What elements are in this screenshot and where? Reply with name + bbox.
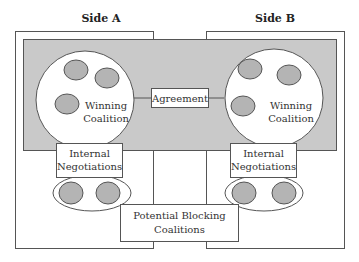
side-b-winning-label-line1: Winning	[270, 100, 313, 111]
side-a-title: Side A	[81, 12, 121, 25]
side-a-internal-label-line2: Negotiations	[57, 161, 122, 172]
agreement-label: Agreement	[151, 93, 208, 104]
side-b-blocking-member	[272, 182, 296, 204]
side-b-member-circle	[231, 96, 255, 116]
side-a-blocking-member	[96, 182, 120, 204]
side-b-internal-label-line2: Negotiations	[231, 161, 296, 172]
side-a-internal-label-line1: Internal	[69, 148, 110, 159]
side-b-blocking-member	[232, 182, 256, 204]
side-a-blocking-member	[59, 182, 83, 204]
two-level-game-diagram: Side A Side B Agreement Winning Coalitio…	[0, 0, 359, 262]
side-a-winning-label-line2: Coalition	[83, 113, 129, 124]
side-a-member-circle	[95, 68, 119, 88]
blocking-label-line1: Potential Blocking	[133, 210, 226, 221]
side-a-member-circle	[55, 94, 79, 114]
side-a-member-circle	[64, 60, 88, 80]
side-b-title: Side B	[255, 12, 295, 25]
blocking-label-line2: Coalitions	[154, 224, 205, 235]
side-a-winning-label-line1: Winning	[85, 100, 128, 111]
side-b-winning-label-line2: Coalition	[268, 113, 314, 124]
side-b-internal-label-line1: Internal	[243, 148, 284, 159]
side-b-member-circle	[277, 65, 301, 85]
side-b-member-circle	[238, 59, 262, 79]
